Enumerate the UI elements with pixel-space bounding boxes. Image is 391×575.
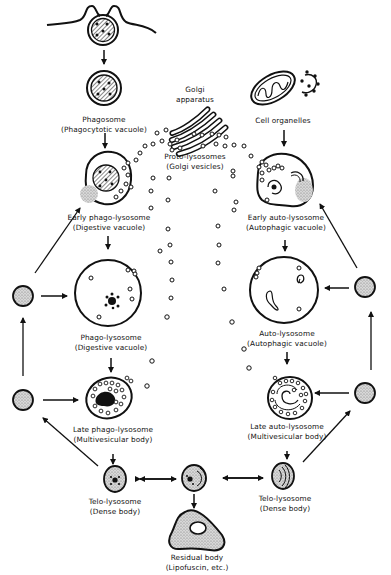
mitochondrion-icon xyxy=(246,65,301,112)
endoplasmic-reticulum-icon xyxy=(300,70,319,96)
late-auto-lysosome-label: Late auto-lysosome (Multivesicular body) xyxy=(248,422,327,441)
residual-body-title: Residual body xyxy=(166,553,229,563)
late-phago-lysosome-icon xyxy=(81,371,138,424)
telo-lysosome-left-icon xyxy=(104,466,126,492)
telo-lysosome-right-subtitle: (Dense body) xyxy=(259,504,312,514)
golgi-subtitle: apparatus xyxy=(176,95,214,105)
telo-lysosome-center-icon xyxy=(182,465,206,491)
early-auto-lysosome-title: Early auto-lysosome xyxy=(246,213,326,223)
golgi-title: Golgi xyxy=(176,85,214,95)
late-auto-lysosome-icon xyxy=(268,376,312,419)
auto-lysosome-title: Auto-lysosome xyxy=(247,329,327,339)
primary-lysosome-left-upper-icon xyxy=(13,286,33,306)
phago-lysosome-icon xyxy=(75,260,141,326)
proto-lysosomes-label: Proto-lysosomes (Golgi vesicles) xyxy=(164,152,225,171)
cell-organelles-title: Cell organelles xyxy=(255,116,310,126)
residual-body-icon xyxy=(169,510,224,550)
late-auto-lysosome-subtitle: (Multivesicular body) xyxy=(248,432,327,442)
phagosome-label: Phagosome (Phagocytotic vacuole) xyxy=(61,115,147,134)
late-phago-lysosome-title: Late phago-lysosome xyxy=(73,425,153,435)
late-phago-lysosome-subtitle: (Multivesicular body) xyxy=(73,435,153,445)
telo-lysosome-left-label: Telo-lysosome (Dense body) xyxy=(89,497,142,516)
telo-lysosome-left-title: Telo-lysosome xyxy=(89,497,142,507)
golgi-label: Golgi apparatus xyxy=(176,85,214,104)
early-phago-lysosome-title: Early phago-lysosome xyxy=(68,213,151,223)
auto-lysosome-subtitle: (Autophagic vacuole) xyxy=(247,339,327,349)
early-auto-lysosome-subtitle: (Autophagic vacuole) xyxy=(246,223,326,233)
auto-lysosome-icon xyxy=(250,257,318,323)
primary-lysosome-left-lower-icon xyxy=(13,390,33,410)
primary-lysosome-right-lower-icon xyxy=(355,383,375,403)
late-auto-lysosome-title: Late auto-lysosome xyxy=(248,422,327,432)
residual-body-subtitle: (Lipofuscin, etc.) xyxy=(166,563,229,573)
early-auto-lysosome-label: Early auto-lysosome (Autophagic vacuole) xyxy=(246,213,326,232)
phagosome-subtitle: (Phagocytotic vacuole) xyxy=(61,125,147,135)
early-auto-lysosome-icon xyxy=(257,154,313,207)
telo-lysosome-right-icon xyxy=(272,463,294,489)
early-phago-lysosome-subtitle: (Digestive vacuole) xyxy=(68,223,151,233)
phagocytosis-icon xyxy=(47,6,156,45)
phago-lysosome-title: Phago-lysosome xyxy=(75,333,148,343)
telo-lysosome-left-subtitle: (Dense body) xyxy=(89,507,142,517)
residual-body-label: Residual body (Lipofuscin, etc.) xyxy=(166,553,229,572)
cell-organelles-label: Cell organelles xyxy=(255,116,310,126)
telo-lysosome-right-title: Telo-lysosome xyxy=(259,494,312,504)
early-phago-lysosome-icon xyxy=(80,152,133,205)
auto-lysosome-label: Auto-lysosome (Autophagic vacuole) xyxy=(247,329,327,348)
phagosome-title: Phagosome xyxy=(61,115,147,125)
phago-lysosome-subtitle: (Digestive vacuole) xyxy=(75,343,148,353)
phagosome-icon xyxy=(87,71,121,105)
early-phago-lysosome-label: Early phago-lysosome (Digestive vacuole) xyxy=(68,213,151,232)
proto-lysosomes-subtitle: (Golgi vesicles) xyxy=(164,162,225,172)
phago-lysosome-label: Phago-lysosome (Digestive vacuole) xyxy=(75,333,148,352)
late-phago-lysosome-label: Late phago-lysosome (Multivesicular body… xyxy=(73,425,153,444)
proto-lysosomes-title: Proto-lysosomes xyxy=(164,152,225,162)
telo-lysosome-right-label: Telo-lysosome (Dense body) xyxy=(259,494,312,513)
primary-lysosome-right-upper-icon xyxy=(355,277,375,297)
